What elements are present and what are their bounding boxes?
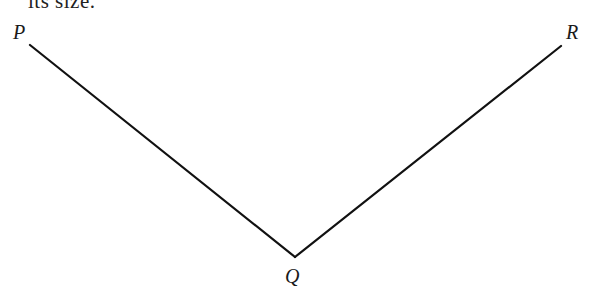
point-label-p: P [13,21,25,44]
segment-pq [30,45,295,257]
point-label-r: R [566,21,578,44]
segment-qr [295,46,561,257]
angle-diagram [0,0,602,304]
point-label-q: Q [285,265,299,288]
